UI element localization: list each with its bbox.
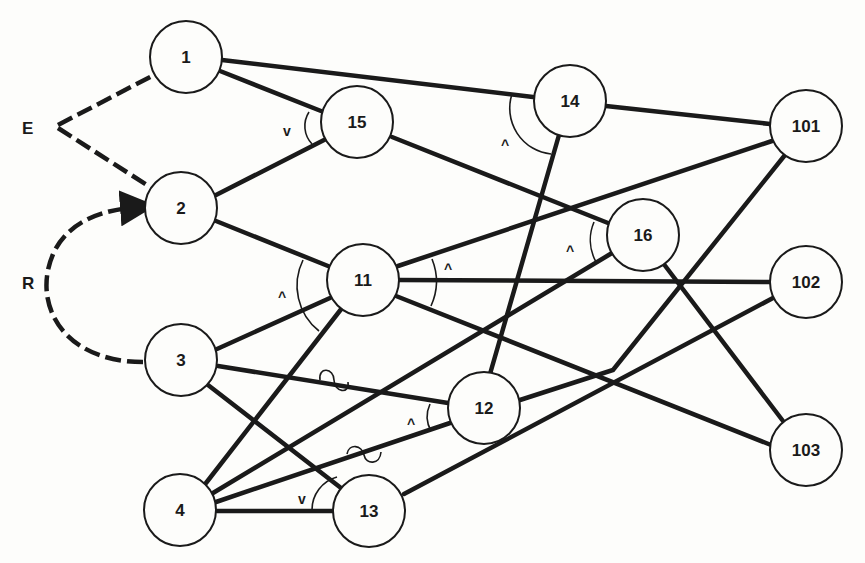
edges: [206, 60, 785, 511]
node-14: 14: [534, 65, 606, 137]
input-label-R: R: [22, 274, 34, 293]
edge-E-2: [58, 128, 150, 187]
node-4: 4: [144, 474, 216, 546]
arc-11-left: [297, 260, 319, 331]
node-label: 14: [561, 92, 580, 111]
op-symbol-12: ^: [407, 416, 415, 432]
arc-16: [590, 222, 596, 262]
node-1: 1: [150, 21, 222, 93]
node-label: 2: [176, 199, 185, 218]
node-102: 102: [770, 246, 842, 318]
node-label: 12: [475, 399, 494, 418]
node-label: 13: [360, 502, 379, 521]
edge-E-1: [58, 76, 152, 125]
op-symbol-13: v: [298, 491, 306, 507]
input-edges: [46, 76, 152, 362]
edge-R-3-to-2: [46, 207, 143, 362]
edge-11-102: [399, 280, 770, 282]
arc-15: [305, 112, 312, 144]
node-label: 103: [792, 441, 820, 460]
edge-15-16: [392, 137, 608, 223]
node-16: 16: [607, 199, 679, 271]
node-label: 3: [176, 351, 185, 370]
node-label: 1: [181, 48, 190, 67]
op-symbol-15: v: [283, 123, 291, 139]
edge-14-101: [606, 106, 770, 124]
node-label: 102: [792, 273, 820, 292]
operator-symbols: v ^ ^ ^ ^ ^ v: [278, 123, 574, 507]
edge-16-103: [663, 263, 783, 421]
node-12: 12: [448, 372, 520, 444]
node-103: 103: [770, 414, 842, 486]
node-2: 2: [145, 172, 217, 244]
op-symbol-16: ^: [566, 243, 574, 259]
node-label: 101: [792, 117, 820, 136]
node-label: 16: [634, 226, 653, 245]
node-label: 15: [348, 113, 367, 132]
edge-3-13: [208, 385, 341, 488]
edge-1-15: [220, 71, 321, 111]
edge-2-11: [216, 221, 328, 266]
input-label-E: E: [22, 119, 33, 138]
op-symbol-11-right: ^: [444, 261, 452, 277]
logic-network-diagram: v ^ ^ ^ ^ ^ v E R 1 2 3 4 15 14 11 16 12…: [0, 0, 865, 563]
arc-12: [427, 404, 431, 431]
arc-11-right: [431, 259, 436, 306]
edge-3-11: [217, 298, 330, 349]
edge-2-15: [216, 139, 326, 195]
node-3: 3: [145, 324, 217, 396]
node-label: 4: [175, 501, 185, 520]
node-101: 101: [770, 90, 842, 162]
op-symbol-14: ^: [501, 137, 509, 153]
node-label: 11: [354, 271, 372, 290]
node-11: 11: [327, 244, 399, 316]
node-15: 15: [321, 86, 393, 158]
node-13: 13: [333, 475, 405, 547]
op-symbol-11-left: ^: [278, 289, 286, 305]
